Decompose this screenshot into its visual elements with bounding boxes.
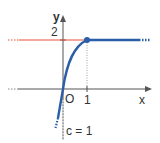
y-axis-label: y [53, 10, 60, 24]
x-axis-label: x [139, 93, 145, 107]
function-graph: y 2 1 O x c = 1 [0, 0, 160, 143]
point-1-2 [84, 37, 90, 43]
blue-curve-dotted [56, 118, 59, 128]
x-tick-label-1: 1 [84, 93, 91, 107]
annotation-c: c = 1 [66, 124, 93, 138]
x-axis-arrow-icon [145, 86, 152, 92]
y-tick-label-2: 2 [51, 25, 58, 39]
blue-curve [58, 40, 87, 118]
y-axis-arrow-icon [60, 15, 66, 22]
origin-label: O [65, 92, 74, 106]
